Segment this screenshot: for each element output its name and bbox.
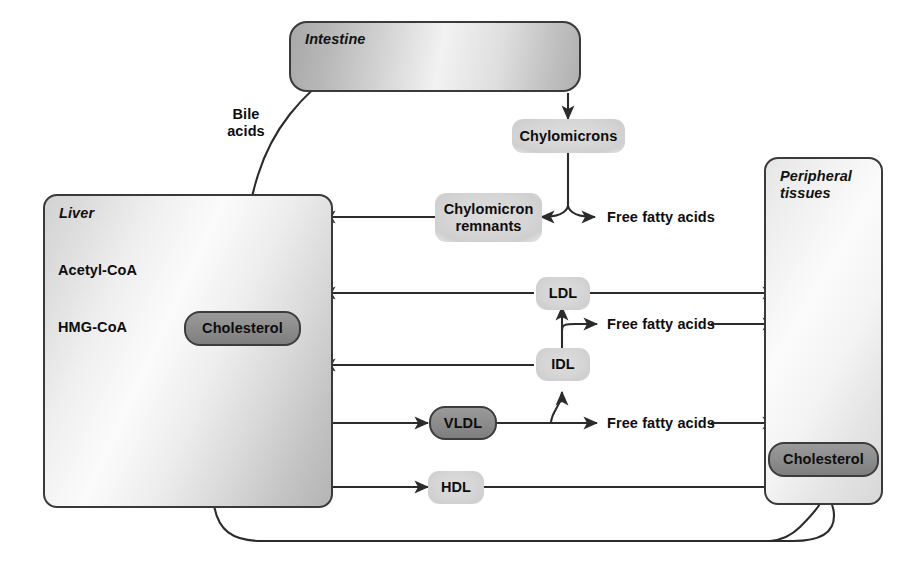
compartment-intestine: Intestine [289,21,581,92]
label-hmg-coa: HMG-CoA [58,319,127,336]
edge-chylomicrons-to-ffa [568,206,595,217]
diagram-canvas: Intestine Liver Peripheral tissues Chylo… [0,0,906,570]
label-free-fatty-acids-idl: Free fatty acids [607,316,715,333]
intestine-label: Intestine [305,31,366,48]
node-chylomicrons: Chylomicrons [512,119,625,153]
label-free-fatty-acids-chylomicron: Free fatty acids [607,209,715,226]
edge-chylomicrons-to-remnants [541,206,568,217]
node-hdl: HDL [428,471,484,504]
label-bile-acids: Bile acids [214,106,278,141]
compartment-liver: Liver [43,194,333,508]
liver-label: Liver [59,205,94,222]
node-ldl: LDL [536,277,590,310]
node-liver-cholesterol: Cholesterol [184,311,301,346]
label-free-fatty-acids-vldl: Free fatty acids [607,415,715,432]
node-vldl: VLDL [429,406,497,440]
node-peripheral-cholesterol: Cholesterol [768,442,879,477]
node-idl: IDL [536,348,590,381]
node-chylomicron-remnants: Chylomicron remnants [435,193,542,242]
peripheral-tissues-label: Peripheral tissues [780,168,852,202]
edge-idl-to-ffa [562,324,597,330]
edge-vldl-to-idl [551,392,562,423]
label-acetyl-coa: Acetyl-CoA [58,262,137,279]
edge-hdl-return-loop [262,487,834,541]
